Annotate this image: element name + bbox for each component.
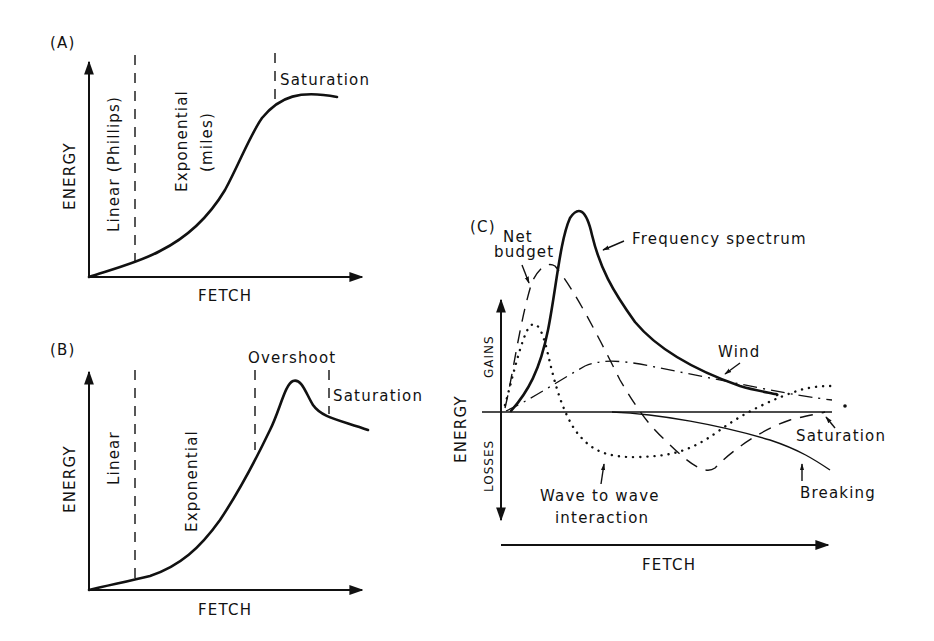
panel-c-losses-label: LOSSES [482,440,496,492]
panel-c: (C) ENERGY GAINS LOSSES FETCH Net budget… [452,211,886,574]
wave-to-wave-label-line2: interaction [555,509,649,527]
panel-b-region-saturation: Saturation [333,387,423,405]
panel-c-gains-label: GAINS [482,335,496,378]
panel-a-label: (A) [50,34,76,52]
wind-curve [506,361,832,411]
panel-b-energy-curve [89,381,368,590]
saturation-label: Saturation [796,427,886,445]
panel-b-label: (B) [50,341,76,359]
panel-a-x-label: FETCH [198,287,252,305]
panel-b-region-exponential: Exponential [183,430,201,532]
panel-c-dot [843,404,847,408]
wind-label: Wind [718,343,761,361]
panel-a: (A) ENERGY FETCH Linear (Phillips) Expon… [50,34,370,305]
panel-b-x-label: FETCH [198,601,252,619]
net-budget-label-line2: budget [494,243,554,261]
panel-a-region-saturation: Saturation [280,71,370,89]
frequency-spectrum-pointer-icon [603,241,624,250]
wave-growth-diagram: (A) ENERGY FETCH Linear (Phillips) Expon… [0,0,934,641]
panel-c-y-label: ENERGY [452,395,470,463]
panel-c-label: (C) [470,218,496,236]
panel-a-region-miles: (miles) [198,112,216,172]
wave-to-wave-pointer-icon [601,464,604,484]
panel-b-region-linear: Linear [105,431,123,485]
panel-b: (B) ENERGY FETCH Linear Exponential Over… [50,341,423,619]
wind-pointer-icon [725,363,740,374]
panel-c-x-label: FETCH [642,556,696,574]
panel-a-y-label: ENERGY [61,142,79,210]
panel-b-y-label: ENERGY [61,445,79,513]
frequency-spectrum-label: Frequency spectrum [632,230,807,248]
panel-a-region-linear: Linear (Phillips) [105,96,123,232]
panel-b-region-overshoot: Overshoot [248,349,336,367]
net-budget-pointer-icon [522,265,529,283]
panel-a-region-exponential: Exponential [173,90,191,192]
breaking-label: Breaking [800,484,876,502]
wave-to-wave-label-line1: Wave to wave [540,487,660,505]
wave-to-wave-curve [505,324,832,457]
